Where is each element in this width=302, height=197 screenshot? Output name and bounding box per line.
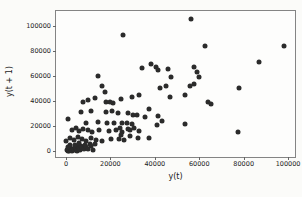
data-point [110,109,115,114]
x-tick-label: 40000 [144,161,165,168]
data-point [282,44,287,49]
data-point [166,67,171,72]
plot-area: 0200004000060000800001000000200004000060… [55,10,296,158]
data-point [235,130,240,135]
data-point [110,101,115,106]
x-tick-label: 60000 [189,161,210,168]
y-tick-mark [53,26,56,27]
y-tick-mark [53,126,56,127]
x-tick-label: 100000 [276,161,301,168]
y-tick-label: 80000 [30,47,51,54]
data-point [155,114,160,119]
data-point [135,112,140,117]
data-point [155,68,160,73]
data-point [108,137,113,142]
data-point [160,119,165,124]
data-point [96,119,101,124]
x-tick-label: 20000 [100,161,121,168]
y-axis-label: y(t + 1) [5,17,14,147]
y-tick-label: 100000 [26,22,51,29]
data-point [129,94,134,99]
data-point [163,83,168,88]
data-point [188,16,193,21]
x-tick-label: 0 [64,161,68,168]
data-point [100,138,105,143]
data-point [168,94,173,99]
data-point [118,125,123,130]
data-point [118,96,123,101]
data-point [121,33,126,38]
data-point [90,129,95,134]
y-tick-mark [53,76,56,77]
data-point [143,115,148,120]
data-point [192,82,197,87]
data-point [137,129,142,134]
data-point [121,137,126,142]
data-point [83,120,88,125]
data-point [136,93,141,98]
data-point [77,141,82,146]
data-point [100,83,105,88]
scatter-plot-figure: y(t + 1) 0200004000060000800001000000200… [0,0,302,197]
y-tick-mark [53,51,56,52]
y-tick-label: 40000 [30,98,51,105]
data-point [116,111,121,116]
data-point [93,141,98,146]
x-tick-label: 80000 [233,161,254,168]
data-point [125,127,130,132]
data-point [78,109,83,114]
data-point [85,97,90,102]
data-point [147,136,152,141]
data-point [97,127,102,132]
data-point [183,93,188,98]
data-point [91,148,96,153]
data-point [88,109,93,114]
y-tick-label: 0 [47,148,51,155]
data-point [147,106,152,111]
data-point [136,136,141,141]
data-point [128,133,133,138]
data-point [130,112,135,117]
data-point [65,144,70,149]
y-tick-mark [53,151,56,152]
data-point [182,122,187,127]
data-point [196,74,201,79]
data-point [208,102,213,107]
data-point [155,123,160,128]
data-point [93,95,98,100]
data-point [168,74,173,79]
data-point [104,110,109,115]
data-point [81,100,86,105]
data-point [102,89,107,94]
data-point [203,44,208,49]
data-point [95,73,100,78]
data-point [139,66,144,71]
data-point [236,86,241,91]
data-point [106,128,111,133]
data-point [158,85,163,90]
y-tick-mark [53,101,56,102]
data-point [105,121,110,126]
y-tick-label: 60000 [30,73,51,80]
data-point [256,60,261,65]
data-point [65,117,70,122]
data-point [111,120,116,125]
y-tick-label: 20000 [30,123,51,130]
x-axis-label: y(t) [55,172,296,181]
